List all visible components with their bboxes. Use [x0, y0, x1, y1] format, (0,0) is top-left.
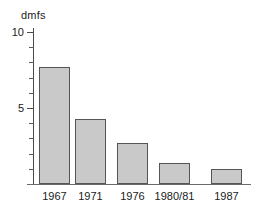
y-axis-minor-tick — [29, 123, 34, 124]
y-axis-minor-tick — [29, 62, 34, 63]
y-axis-minor-tick — [29, 93, 34, 94]
y-axis-title: dmfs — [21, 9, 46, 21]
bar — [39, 67, 70, 184]
y-axis-minor-tick — [29, 169, 34, 170]
y-axis-minor-tick — [29, 78, 34, 79]
y-axis-major-tick — [27, 32, 34, 33]
bar — [159, 163, 190, 184]
bar-chart-figure: dmfs 510 1967197119761980/811987 — [0, 0, 255, 215]
x-axis-tick-label: 1987 — [197, 190, 256, 202]
y-axis-minor-tick — [29, 154, 34, 155]
y-axis-minor-tick — [29, 138, 34, 139]
y-axis-minor-tick — [29, 47, 34, 48]
bar — [211, 169, 242, 184]
x-axis-line — [27, 184, 251, 185]
y-axis-major-tick — [27, 108, 34, 109]
bar — [75, 119, 106, 184]
y-axis-tick-label: 10 — [0, 27, 24, 38]
bar — [117, 143, 148, 184]
y-axis-tick-label: 5 — [0, 103, 24, 114]
y-axis-line — [33, 28, 34, 185]
x-axis-tick-label: 1980/81 — [145, 190, 205, 202]
